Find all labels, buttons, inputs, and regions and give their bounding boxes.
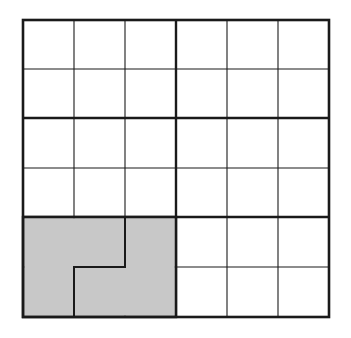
grid-diagram [0, 0, 351, 338]
